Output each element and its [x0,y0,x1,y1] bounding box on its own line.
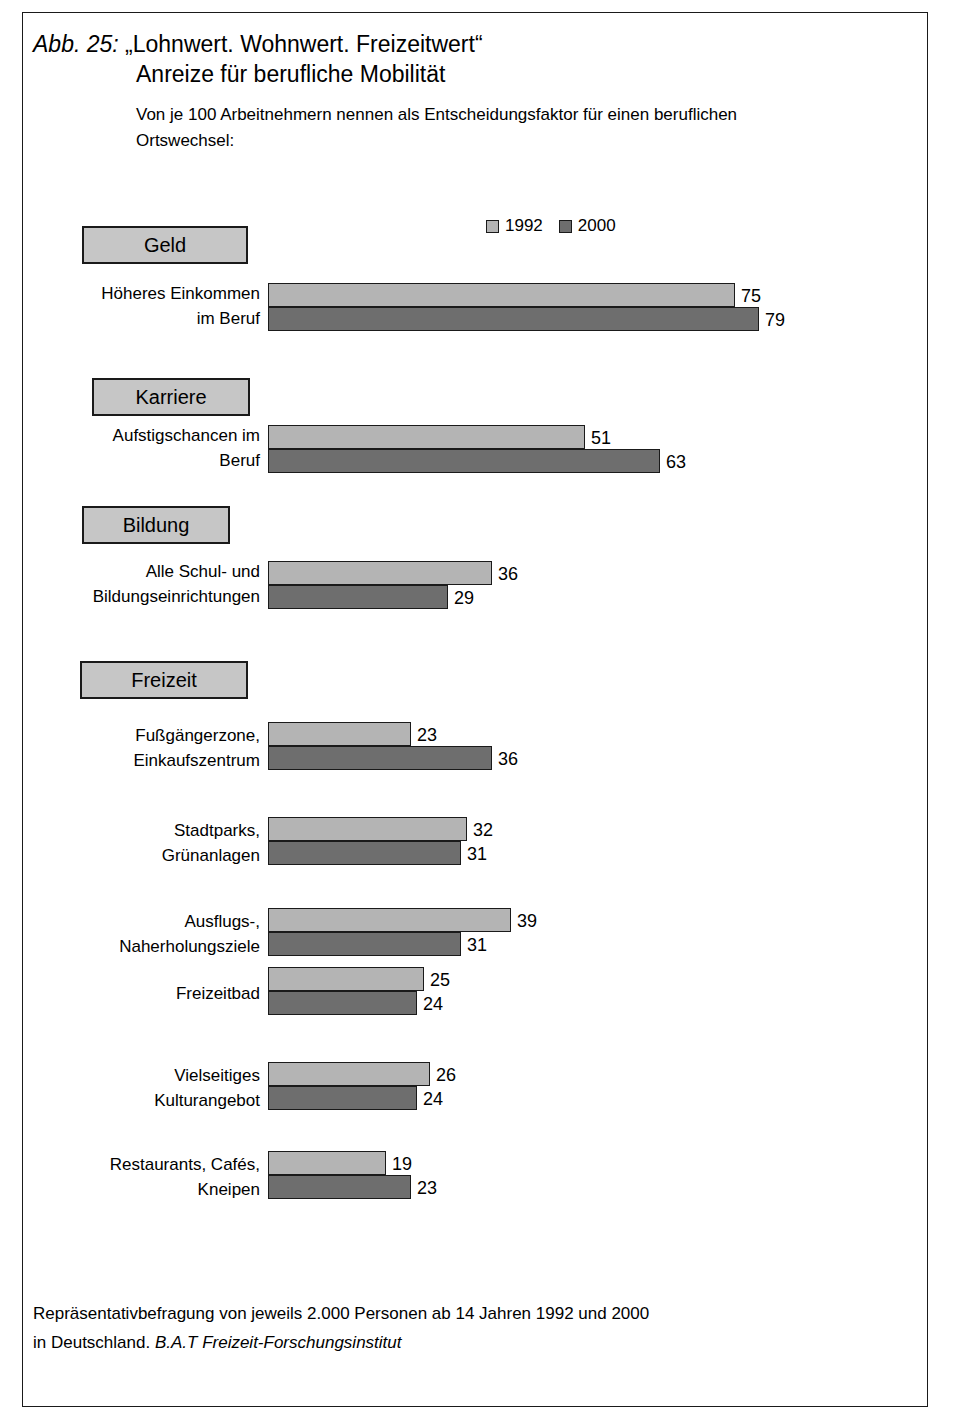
bar-2000 [268,1086,417,1110]
bar-value-label: 25 [430,971,450,989]
footnote-line-1: Repräsentativbefragung von jeweils 2.000… [33,1299,853,1328]
bar-1992 [268,722,411,746]
bar-2000 [268,991,417,1015]
footnote-line-2: in Deutschland. B.A.T Freizeit-Forschung… [33,1328,853,1357]
bar-value-label: 23 [417,1179,437,1197]
bar-2000 [268,841,461,865]
bar-value-label: 63 [666,453,686,471]
bar-row-label-line-2: Bildungseinrichtungen [18,584,260,609]
bar-value-label: 39 [517,912,537,930]
category-heading-label: Freizeit [131,669,197,692]
bar-1992 [268,908,511,932]
category-heading-label: Karriere [135,386,206,409]
category-heading-freizeit: Freizeit [80,661,248,699]
bar-value-label: 19 [392,1155,412,1173]
bar-row-label-line-1: Ausflugs-, [18,909,260,934]
bar-row-label: Höheres Einkommenim Beruf [18,281,260,331]
bar-2000 [268,932,461,956]
bar-2000 [268,585,448,609]
bar-row-label-line-2: Naherholungsziele [18,934,260,959]
bar-row-label: VielseitigesKulturangebot [18,1063,260,1113]
bar-2000 [268,1175,411,1199]
bar-value-label: 29 [454,589,474,607]
bar-1992 [268,817,467,841]
bar-value-label: 36 [498,750,518,768]
category-heading-bildung: Bildung [82,506,230,544]
bar-row-label-line-1: Restaurants, Cafés, [18,1152,260,1177]
footnote-source-prefix: in Deutschland. [33,1333,155,1352]
bar-row-label-line-2: Kulturangebot [18,1088,260,1113]
bar-value-label: 24 [423,1090,443,1108]
figure-frame: Abb. 25: „Lohnwert. Wohnwert. Freizeitwe… [22,12,928,1407]
bar-value-label: 36 [498,565,518,583]
bar-value-label: 31 [467,936,487,954]
bar-1992 [268,1151,386,1175]
bar-row-label: Freizeitbad [18,981,260,1006]
bar-row-label: Restaurants, Cafés,Kneipen [18,1152,260,1202]
bar-value-label: 51 [591,429,611,447]
bar-row-label-line-2: Grünanlagen [18,843,260,868]
category-heading-geld: Geld [82,226,248,264]
bar-row-label-line-1: Vielseitiges [18,1063,260,1088]
footnote-source-institute: B.A.T Freizeit-Forschungsinstitut [155,1333,402,1352]
bar-2000 [268,746,492,770]
bar-row-label-line-2: Beruf [18,448,260,473]
bar-value-label: 23 [417,726,437,744]
figure-footnote: Repräsentativbefragung von jeweils 2.000… [33,1299,853,1357]
bar-value-label: 31 [467,845,487,863]
category-heading-label: Geld [144,234,186,257]
bar-row-label-line-1: Fußgängerzone, [18,723,260,748]
bar-row-label: Aufstigschancen imBeruf [18,423,260,473]
bar-1992 [268,967,424,991]
bar-1992 [268,425,585,449]
bar-row-label-line-1: Stadtparks, [18,818,260,843]
chart-plot-area: GeldHöheres Einkommenim Beruf7579Karrier… [23,13,929,1408]
bar-value-label: 75 [741,287,761,305]
category-heading-label: Bildung [123,514,190,537]
bar-row-label-line-1: Aufstigschancen im [18,423,260,448]
bar-2000 [268,307,759,331]
bar-row-label-line-1: Alle Schul- und [18,559,260,584]
bar-row-label: Fußgängerzone,Einkaufszentrum [18,723,260,773]
bar-row-label-line-2: Einkaufszentrum [18,748,260,773]
bar-row-label: Stadtparks,Grünanlagen [18,818,260,868]
bar-value-label: 26 [436,1066,456,1084]
bar-2000 [268,449,660,473]
category-heading-karriere: Karriere [92,378,250,416]
bar-value-label: 32 [473,821,493,839]
bar-row-label-line-2: im Beruf [18,306,260,331]
bar-1992 [268,283,735,307]
bar-1992 [268,561,492,585]
bar-1992 [268,1062,430,1086]
bar-row-label-line-2: Kneipen [18,1177,260,1202]
bar-row-label-line-1: Freizeitbad [18,981,260,1006]
bar-row-label: Alle Schul- undBildungseinrichtungen [18,559,260,609]
bar-row-label-line-1: Höheres Einkommen [18,281,260,306]
bar-value-label: 24 [423,995,443,1013]
bar-value-label: 79 [765,311,785,329]
bar-row-label: Ausflugs-,Naherholungsziele [18,909,260,959]
